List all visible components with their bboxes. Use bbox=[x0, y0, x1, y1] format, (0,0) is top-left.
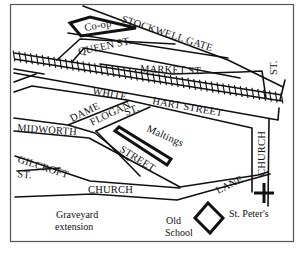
label-gilcroft-st: ST. bbox=[17, 168, 33, 180]
label-graveyard-2: extension bbox=[55, 221, 93, 232]
label-market-st: MARKET ST. bbox=[140, 63, 203, 76]
label-st-vertical: ST. bbox=[268, 60, 279, 75]
label-old-school-2: School bbox=[165, 227, 193, 238]
label-church: CHURCH bbox=[88, 184, 133, 195]
label-church-vertical: CHURCH bbox=[256, 131, 267, 176]
label-old-school-1: Old bbox=[166, 215, 181, 226]
label-graveyard-1: Graveyard bbox=[56, 209, 98, 220]
label-st-peters: St. Peter's bbox=[229, 208, 269, 219]
street-map: Co-op STOCKWELL GATE QUEEN ST. MARKET ST… bbox=[0, 0, 300, 256]
